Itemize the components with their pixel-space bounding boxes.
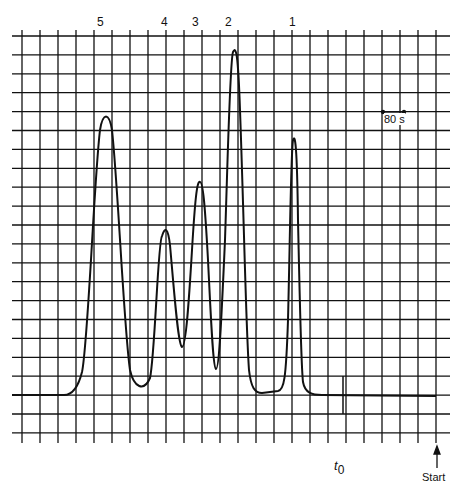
start-arrow bbox=[434, 446, 440, 468]
peak-label-1: 1 bbox=[289, 15, 296, 29]
peak-label-3: 3 bbox=[192, 15, 199, 29]
t0-label: t0 bbox=[334, 458, 344, 477]
peak-label-5: 5 bbox=[97, 15, 104, 29]
scale-bar-label: 80 s bbox=[384, 113, 405, 125]
start-label: Start bbox=[422, 471, 445, 483]
t0-sub: 0 bbox=[338, 463, 345, 477]
peak-label-4: 4 bbox=[161, 15, 168, 29]
chromatogram-chart bbox=[0, 0, 462, 493]
peak-label-2: 2 bbox=[225, 15, 232, 29]
